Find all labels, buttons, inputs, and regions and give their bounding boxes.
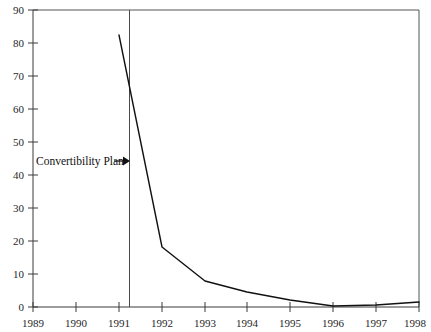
x-tick-label-1997: 1997 [365,317,388,329]
chart-container: 0 10 20 30 40 50 60 70 80 90 1989 [0,0,431,332]
x-tick-label-1996: 1996 [322,317,345,329]
y-tick-label-90: 90 [13,4,25,16]
x-tick-label-1995: 1995 [279,317,302,329]
x-tick-label-1994: 1994 [236,317,259,329]
y-tick-label-30: 30 [13,202,25,214]
x-tick-label-1992: 1992 [151,317,173,329]
line-chart: 0 10 20 30 40 50 60 70 80 90 1989 [0,0,431,332]
y-tick-label-40: 40 [13,169,25,181]
y-tick-label-70: 70 [13,70,25,82]
x-tick-label-1993: 1993 [194,317,217,329]
x-tick-label-1998: 1998 [404,317,427,329]
y-tick-label-10: 10 [13,268,25,280]
y-axis-labels: 0 10 20 30 40 50 60 70 80 90 [13,4,25,313]
convertibility-plan-label: Convertibility Plan [36,155,124,168]
x-tick-label-1991: 1991 [108,317,130,329]
y-tick-label-50: 50 [13,136,25,148]
y-tick-label-0: 0 [19,301,25,313]
y-tick-label-60: 60 [13,103,25,115]
x-tick-label-1989: 1989 [22,317,45,329]
y-tick-label-20: 20 [13,235,25,247]
x-axis-labels: 1989 1990 1991 1992 1993 1994 1995 1996 … [22,317,427,329]
inflation-data-line [119,35,419,306]
y-tick-label-80: 80 [13,37,25,49]
x-tick-label-1990: 1990 [65,317,88,329]
